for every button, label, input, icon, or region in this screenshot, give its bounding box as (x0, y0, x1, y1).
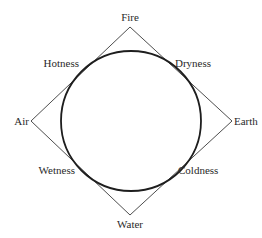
label-wetness: Wetness (39, 164, 75, 176)
label-dryness: Dryness (175, 57, 211, 69)
label-water: Water (117, 218, 143, 230)
label-hotness: Hotness (44, 57, 79, 69)
label-fire: Fire (121, 11, 139, 23)
label-coldness: Coldness (178, 164, 218, 176)
label-air: Air (14, 115, 29, 127)
label-earth: Earth (234, 115, 258, 127)
elements-diagram: Fire Air Earth Water Hotness Dryness Wet… (0, 0, 262, 238)
